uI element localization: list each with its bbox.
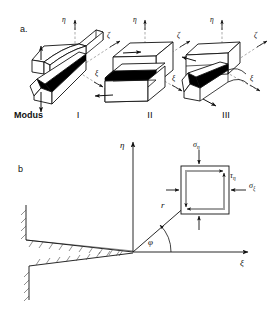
mode-i-eta-label: η xyxy=(62,15,66,24)
mode-numeral-i: I xyxy=(77,109,80,120)
figure-root: a. η ζ ξ xyxy=(0,0,280,309)
panel-b-eta-label: η xyxy=(120,140,125,150)
modus-row-label: Modus xyxy=(14,110,43,120)
mode-iii-eta-label: η xyxy=(210,15,214,24)
figure-svg: a. η ζ ξ xyxy=(0,0,280,309)
panel-a-label: a. xyxy=(20,24,28,34)
stress-element-square xyxy=(181,166,229,214)
mode-numeral-iii: III xyxy=(222,109,230,120)
mode-numeral-ii: II xyxy=(147,109,152,120)
angle-label: φ xyxy=(148,237,153,247)
panel-b-xi-label: ξ xyxy=(240,258,244,268)
panel-b-label: b xyxy=(18,164,23,174)
mode-ii-eta-label: η xyxy=(133,15,137,24)
radius-label: r xyxy=(161,200,165,210)
